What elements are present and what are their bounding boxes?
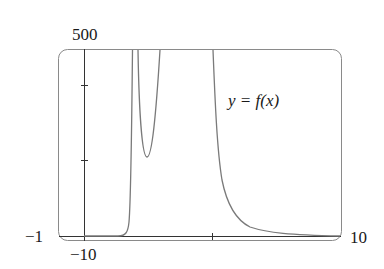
curve-f xyxy=(84,50,340,236)
plot-area xyxy=(0,0,384,269)
plot-frame xyxy=(59,50,342,241)
